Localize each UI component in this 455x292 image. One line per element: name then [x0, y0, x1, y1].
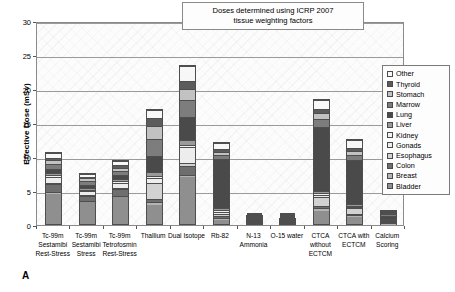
- bar-segment-lung: [347, 160, 362, 204]
- x-axis-tick-label-line: Ammonia: [232, 240, 275, 249]
- y-axis-tick-mark: [33, 56, 36, 57]
- bar-segment-colon: [180, 166, 195, 175]
- legend-item-lung[interactable]: Lung: [387, 110, 446, 120]
- bar-segment-bladder: [46, 194, 61, 224]
- x-axis-tick-label-line: Calcium: [366, 231, 409, 240]
- legend-label: Breast: [396, 172, 417, 179]
- legend-label: Bladder: [396, 183, 421, 190]
- stacked-bar: [112, 160, 129, 225]
- bar-segment-lung: [214, 159, 229, 208]
- legend-swatch-icon: [387, 153, 393, 159]
- y-axis-tick-label: 30: [0, 18, 36, 27]
- stacked-bar: [79, 173, 96, 225]
- bar-segment-breast: [280, 223, 295, 224]
- bar-segment-other: [347, 140, 362, 148]
- x-axis-tick-label-line: Scoring: [366, 240, 409, 249]
- annotation-box: Doses determined using ICRP 2007 tissue …: [182, 2, 364, 30]
- legend-item-other[interactable]: Other: [387, 69, 446, 79]
- bar-segment-lung: [314, 127, 329, 191]
- x-axis-tick-mark: [136, 226, 137, 229]
- legend-swatch-icon: [387, 142, 393, 148]
- legend-label: Other: [396, 70, 414, 77]
- x-axis-tick-mark: [337, 226, 338, 229]
- bar-segment-bladder: [314, 211, 329, 224]
- legend-item-bladder[interactable]: Bladder: [387, 181, 446, 191]
- legend-swatch-icon: [387, 71, 393, 77]
- legend-label: Esophagus: [396, 152, 432, 159]
- bar-segment-other: [314, 100, 329, 109]
- legend-item-kidney[interactable]: Kidney: [387, 130, 446, 140]
- y-axis-tick-label: 25: [0, 52, 36, 61]
- legend-swatch-icon: [387, 183, 393, 189]
- legend-label: Liver: [396, 121, 412, 128]
- legend-item-colon[interactable]: Colon: [387, 161, 446, 171]
- stacked-bar: [45, 152, 62, 225]
- bar-segment-esophagus: [314, 197, 329, 206]
- x-axis-tick-label: CalciumScoring: [366, 231, 409, 249]
- bars-layer: [37, 23, 403, 225]
- legend-swatch-icon: [387, 112, 393, 118]
- bar-segment-thyroid: [147, 118, 162, 126]
- bar-segment-other: [180, 66, 195, 81]
- bar-segment-lung: [180, 117, 195, 140]
- bar-segment-colon: [113, 189, 128, 196]
- bar-segment-bladder: [347, 217, 362, 224]
- bar-segment-bladder: [80, 202, 95, 224]
- bar-segment-marrow: [180, 100, 195, 117]
- x-axis-tick-mark: [203, 226, 204, 229]
- stacked-bar: [246, 215, 263, 225]
- legend-label: Marrow: [396, 101, 420, 108]
- legend-swatch-icon: [387, 81, 393, 87]
- bar-segment-marrow: [147, 139, 162, 156]
- bar-segment-other: [147, 110, 162, 118]
- x-axis-tick-mark: [36, 226, 37, 229]
- legend-item-thyroid[interactable]: Thyroid: [387, 79, 446, 89]
- x-axis-tick-mark: [69, 226, 70, 229]
- stacked-bar: [279, 218, 296, 225]
- stacked-bar: [313, 99, 330, 225]
- bar-segment-bladder: [113, 197, 128, 224]
- legend-item-esophagus[interactable]: Esophagus: [387, 151, 446, 161]
- x-axis-tick-label-line: ECTCM: [299, 249, 342, 258]
- bar-segment-lung: [147, 156, 162, 172]
- legend-swatch-icon: [387, 91, 393, 97]
- legend-item-marrow[interactable]: Marrow: [387, 100, 446, 110]
- legend-label: Lung: [396, 111, 412, 118]
- legend-swatch-icon: [387, 102, 393, 108]
- y-axis-tick-mark: [33, 90, 36, 91]
- legend-item-breast[interactable]: Breast: [387, 171, 446, 181]
- x-axis-tick-label-line: Rest-Stress: [98, 249, 141, 258]
- bar-segment-colon: [46, 184, 61, 192]
- y-axis-tick-label: 15: [0, 120, 36, 129]
- legend-label: Colon: [396, 162, 415, 169]
- legend-swatch-icon: [387, 163, 393, 169]
- y-axis-tick-mark: [33, 22, 36, 23]
- bar-segment-bladder: [214, 220, 229, 224]
- stacked-bar: [346, 139, 363, 225]
- legend-swatch-icon: [387, 132, 393, 138]
- annotation-line-1: Doses determined using ICRP 2007: [185, 6, 361, 16]
- stacked-bar: [179, 65, 196, 225]
- x-axis-tick-label-line: Tetrofosmin: [98, 240, 141, 249]
- legend-item-gonads[interactable]: Gonads: [387, 140, 446, 150]
- legend-item-stomach[interactable]: Stomach: [387, 89, 446, 99]
- bar-segment-bladder: [147, 205, 162, 224]
- bar-segment-stomach: [180, 89, 195, 99]
- stacked-bar: [146, 109, 163, 225]
- stacked-bar: [380, 210, 397, 225]
- plot-area: [36, 22, 404, 226]
- bar-segment-stomach: [147, 126, 162, 138]
- annotation-line-2: tissue weighting factors: [185, 16, 361, 26]
- legend-label: Thyroid: [396, 81, 420, 88]
- y-axis-tick-label: 20: [0, 86, 36, 95]
- y-axis-tick-mark: [33, 158, 36, 159]
- panel-letter: A: [22, 270, 29, 281]
- y-axis-tick-label: 10: [0, 154, 36, 163]
- x-axis-tick-mark: [304, 226, 305, 229]
- legend-label: Kidney: [396, 132, 418, 139]
- legend-item-liver[interactable]: Liver: [387, 120, 446, 130]
- bar-segment-gonads: [180, 147, 195, 162]
- bar-segment-marrow: [314, 119, 329, 127]
- bar-segment-bladder: [180, 177, 195, 224]
- legend-label: Gonads: [396, 142, 421, 149]
